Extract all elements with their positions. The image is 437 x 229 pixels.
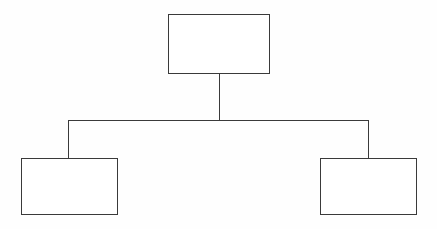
connector-mis-manager-stem — [219, 74, 220, 121]
connector-horizontal-bus — [68, 120, 369, 121]
org-chart-canvas: MIS Manager Operations Systems and Progr… — [0, 0, 437, 229]
connector-drop-systems-and-programming — [368, 120, 369, 159]
org-node-operations[interactable] — [21, 158, 118, 215]
connector-drop-operations — [68, 120, 69, 159]
org-node-mis-manager[interactable] — [168, 14, 270, 74]
org-node-systems-and-programming[interactable] — [320, 158, 417, 215]
